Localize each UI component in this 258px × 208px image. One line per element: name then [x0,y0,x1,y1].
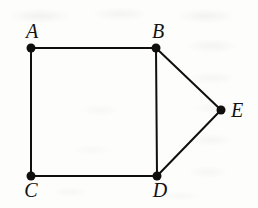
graph-vertex-e [217,106,226,115]
graph-vertex-a [27,44,36,53]
graph-vertex-b [152,44,161,53]
vertex-label-b: B [152,21,164,41]
graph-diagram-figure: ABCDE [0,0,258,208]
graph-edge-layer [0,0,258,208]
graph-edge-de [157,110,221,176]
vertex-label-a: A [26,21,38,41]
graph-edge-be [156,48,221,110]
vertex-label-d: D [153,180,167,200]
graph-edge-bd [156,48,157,176]
vertex-label-c: C [24,180,37,200]
vertex-label-e: E [231,100,243,120]
